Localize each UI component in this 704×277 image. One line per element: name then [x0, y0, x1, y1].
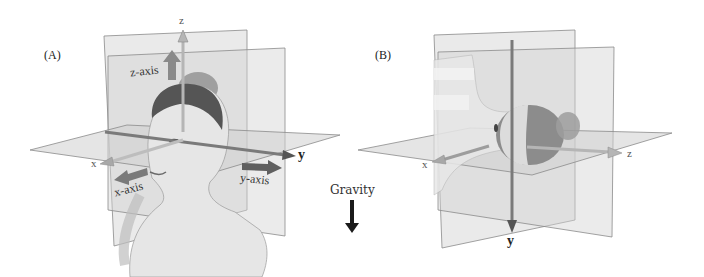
panel-a-label: (A) — [44, 48, 61, 63]
y-axis-arrowhead — [282, 150, 296, 160]
panel-a-illustration — [0, 0, 352, 277]
z-axis-name: z-axis — [129, 63, 159, 81]
panel-b-illustration — [352, 0, 704, 277]
y-axis-letter: y — [298, 147, 305, 163]
y-axis-name: y-axis — [239, 171, 270, 189]
x-axis-letter: x — [91, 157, 97, 169]
panel-b-label: (B) — [375, 48, 391, 63]
z-axis-letter: z — [179, 14, 184, 26]
y-axis-letter: y — [507, 233, 514, 249]
panel-b-tilted-head: (B) x z y — [352, 0, 704, 277]
z-axis-letter: z — [627, 147, 632, 159]
x-axis-letter: x — [422, 158, 428, 170]
panel-a-upright-head: (A) z x y z-axis x-axis y-axis — [0, 0, 352, 277]
